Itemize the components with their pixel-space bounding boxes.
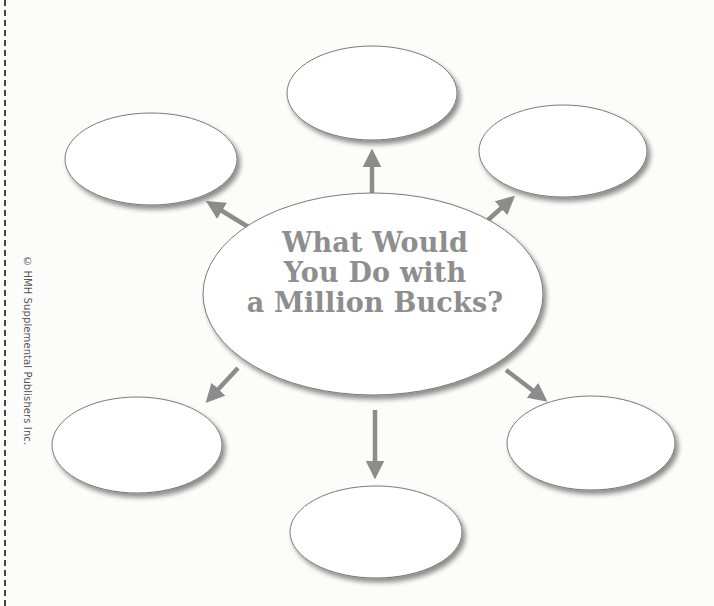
answer-area-upper-left[interactable] [76, 123, 226, 195]
answer-area-bottom[interactable] [300, 496, 452, 568]
worksheet-page: © HMH Supplemental Publishers Inc. [0, 0, 714, 606]
title-line-1: What Would [230, 228, 520, 258]
title-line-3: a Million Bucks? [230, 288, 520, 318]
arrow-upper-right [488, 202, 508, 220]
arrow-lower-right [506, 370, 540, 396]
title-line-2: You Do with [230, 258, 520, 288]
answer-area-top[interactable] [297, 56, 447, 130]
answer-area-lower-right[interactable] [517, 405, 665, 479]
answer-area-upper-right[interactable] [490, 115, 636, 187]
center-title: What Would You Do with a Million Bucks? [230, 228, 520, 318]
arrow-lower-left [212, 368, 238, 396]
answer-area-lower-left[interactable] [62, 407, 212, 483]
arrow-upper-left [214, 206, 250, 228]
